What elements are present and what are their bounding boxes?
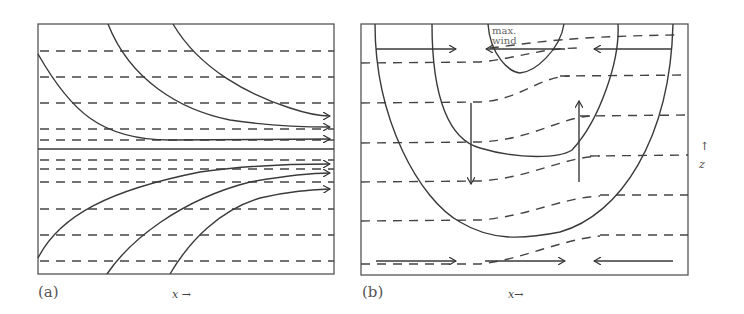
panel-b [361,24,688,275]
panel-b-isotachs [375,24,673,237]
panel-a-label: (a) [38,283,59,301]
panel-b-x-axis-label: x→ [508,288,523,301]
panel-b-label: (b) [362,283,383,301]
max-wind-annotation: max. wind [492,26,517,46]
annotation-line-2: wind [492,36,517,46]
panel-a-x-axis-label: x → [172,288,191,301]
diagram-canvas [0,0,744,314]
panel-b-isentropes [361,35,688,264]
z-axis-arrow-icon: ↑ [700,140,709,153]
panel-b-z-axis-label: z [699,158,705,171]
panel-a-isentropes [40,51,334,261]
panel-a [38,24,334,274]
